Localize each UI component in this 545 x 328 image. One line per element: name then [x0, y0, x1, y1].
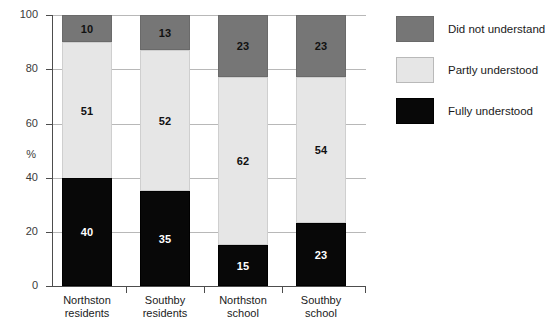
segment-value: 23	[237, 40, 250, 52]
y-axis-line	[52, 15, 53, 287]
x-axis-label-line2: residents	[47, 307, 127, 320]
legend-swatch-icon	[396, 57, 434, 83]
x-axis-label-line2: school	[203, 307, 283, 320]
segment-value: 54	[315, 144, 328, 156]
segment-did-not-understand[interactable]: 23	[296, 15, 346, 77]
segment-fully-understood[interactable]: 35	[140, 191, 190, 286]
segment-partly-understood[interactable]: 51	[62, 42, 112, 180]
segment-value: 52	[159, 115, 172, 127]
legend-item-did-not-understand[interactable]: Did not understand	[396, 14, 532, 44]
segment-value: 23	[315, 249, 328, 261]
x-axis-line	[52, 286, 366, 287]
segment-did-not-understand[interactable]: 10	[62, 15, 112, 42]
x-axis-label-line2: residents	[125, 307, 205, 320]
legend-swatch-icon	[396, 98, 434, 124]
segment-value: 40	[81, 226, 94, 238]
x-axis-label-line2: school	[281, 307, 361, 320]
segment-did-not-understand[interactable]: 23	[218, 15, 268, 77]
segment-partly-understood[interactable]: 62	[218, 77, 268, 245]
legend-label: Partly understood	[448, 64, 538, 76]
segment-value: 15	[237, 260, 250, 272]
bar-northston-school[interactable]: 23 62 15	[218, 15, 268, 286]
legend-swatch-icon	[396, 16, 434, 42]
segment-value: 13	[159, 27, 172, 39]
segment-partly-understood[interactable]: 52	[140, 50, 190, 191]
x-axis-label-line1: Southby	[281, 294, 361, 307]
segment-value: 51	[81, 105, 94, 117]
segment-fully-understood[interactable]: 40	[62, 178, 112, 286]
legend-item-fully-understood[interactable]: Fully understood	[396, 96, 532, 126]
x-axis-label-northston-school: Northston school	[203, 294, 283, 320]
x-axis-label-line1: Southby	[125, 294, 205, 307]
segment-fully-understood[interactable]: 15	[218, 245, 268, 286]
legend: Did not understand Partly understood Ful…	[396, 14, 532, 137]
segment-value: 35	[159, 233, 172, 245]
legend-item-partly-understood[interactable]: Partly understood	[396, 55, 532, 85]
x-axis-label-southby-school: Southby school	[281, 294, 361, 320]
x-axis-label-southby-residents: Southby residents	[125, 294, 205, 320]
bar-southby-residents[interactable]: 13 52 35	[140, 15, 190, 286]
bar-northston-residents[interactable]: 10 51 40	[62, 15, 112, 286]
x-tick-mark-3	[282, 287, 283, 293]
segment-fully-understood[interactable]: 23	[296, 223, 346, 286]
x-tick-mark-1	[126, 287, 127, 293]
x-tick-mark-4	[365, 287, 366, 293]
x-axis-label-line1: Northston	[203, 294, 283, 307]
x-tick-mark-2	[204, 287, 205, 293]
x-axis-label-northston-residents: Northston residents	[47, 294, 127, 320]
legend-label: Fully understood	[448, 105, 533, 117]
segment-value: 10	[81, 23, 94, 35]
legend-label: Did not understand	[448, 23, 545, 35]
bar-southby-school[interactable]: 23 54 23	[296, 15, 346, 286]
x-axis-label-line1: Northston	[47, 294, 127, 307]
segment-value: 62	[237, 155, 250, 167]
segment-partly-understood[interactable]: 54	[296, 77, 346, 223]
segment-did-not-understand[interactable]: 13	[140, 15, 190, 50]
segment-value: 23	[315, 40, 328, 52]
